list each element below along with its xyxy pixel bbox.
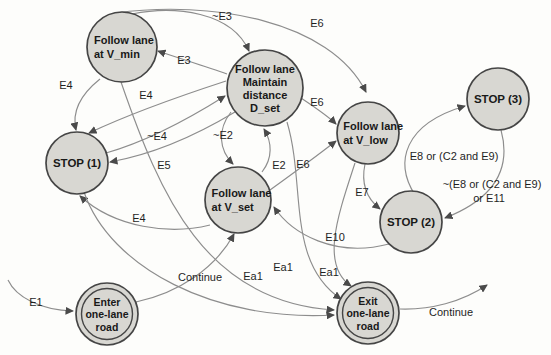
state-node-stop3: STOP (3)	[467, 68, 529, 130]
state-label-enter-line0: Enter	[94, 296, 121, 308]
edge-label-e4_dset: E4	[139, 89, 152, 101]
edge-label-e6_dset: E6	[310, 96, 323, 108]
edge-label-e1: E1	[29, 296, 42, 308]
edge-label2-not_e8: or E11	[473, 192, 505, 204]
state-label-exit-line2: road	[357, 320, 380, 332]
transition-edge-not_e8	[445, 130, 504, 218]
state-diagram: ~E3E6E3E4E4~E4E5~E2E2E6E6E7E8 or (C2 and…	[0, 0, 551, 355]
diagram-canvas: ~E3E6E3E4E4~E4E5~E2E2E6E6E7E8 or (C2 and…	[0, 0, 551, 355]
transition-edge-e4_dset	[89, 81, 226, 133]
state-node-exit: Exitone-laneroad	[337, 282, 399, 344]
state-node-v_low: Follow laneat V_low	[337, 102, 403, 164]
edge-label-continue_enter: Continue	[178, 271, 222, 283]
state-node-v_set: Follow laneat V_set	[205, 167, 272, 233]
state-label-enter-line2: road	[96, 321, 119, 333]
edge-label-e5: E5	[157, 159, 170, 171]
state-circle-v_min	[87, 12, 157, 82]
edge-label-e6_vset: E6	[296, 158, 309, 170]
state-label-v_set-line0: Follow lane	[212, 187, 272, 199]
edge-label-continue_exit: Continue	[429, 306, 473, 318]
transition-edge-e4_vmin	[75, 79, 100, 130]
transition-edge-e2	[262, 129, 270, 172]
edge-label-not_e8: ~(E8 or (C2 and E9)	[443, 178, 542, 190]
edge-label-e8: E8 or (C2 and E9)	[410, 150, 499, 162]
transition-edge-tilde_e4	[106, 96, 225, 153]
state-node-d_set: Follow laneMaintaindistanceD_set	[227, 50, 303, 126]
edge-label-tilde_e2: ~E2	[213, 129, 233, 141]
edge-label-e4_vmin: E4	[59, 79, 72, 91]
edge-label-e2: E2	[272, 159, 285, 171]
edge-label-ea1_vmin: Ea1	[243, 270, 263, 282]
state-label-stop3-line0: STOP (3)	[474, 93, 522, 105]
state-node-stop2: STOP (2)	[380, 191, 442, 253]
state-label-d_set-line1: Maintain	[243, 76, 288, 88]
edge-label-e10: E10	[325, 231, 345, 243]
state-circle-v_set	[205, 167, 271, 233]
state-label-v_low-line0: Follow lane	[343, 120, 403, 132]
state-node-v_min: Follow laneat V_min	[87, 12, 157, 82]
edge-label-tilde_e3: ~E3	[212, 10, 232, 22]
state-circle-v_low	[337, 102, 399, 164]
state-label-d_set-line2: distance	[243, 89, 288, 101]
edge-label-ea1_vlow: Ea1	[319, 266, 339, 278]
state-label-v_min-line1: at V_min	[94, 48, 140, 60]
edge-label-e6_top: E6	[310, 17, 323, 29]
state-label-v_low-line1: at V_low	[343, 134, 388, 146]
edge-label-e4_vset: E4	[132, 212, 145, 224]
state-label-enter-line1: one-lane	[85, 308, 128, 320]
state-label-v_set-line1: at V_set	[212, 201, 255, 213]
edge-label-tilde_e4: ~E4	[147, 130, 167, 142]
state-label-d_set-line3: D_set	[250, 102, 280, 114]
state-label-stop1-line0: STOP (1)	[53, 157, 101, 169]
transition-edge-e3	[158, 51, 227, 74]
transition-edge-continue_enter	[136, 234, 234, 302]
state-node-stop1: STOP (1)	[46, 132, 108, 194]
state-label-exit-line0: Exit	[358, 295, 378, 307]
state-node-enter: Enterone-laneroad	[76, 283, 138, 345]
edge-label-ea1_dset: Ea1	[273, 261, 293, 273]
state-label-d_set-line0: Follow lane	[235, 63, 295, 75]
edge-label-e3: E3	[177, 54, 190, 66]
state-label-v_min-line0: Follow lane	[94, 34, 154, 46]
state-label-exit-line1: one-lane	[346, 307, 389, 319]
state-label-stop2-line0: STOP (2)	[387, 216, 435, 228]
edge-label-e7: E7	[355, 186, 368, 198]
